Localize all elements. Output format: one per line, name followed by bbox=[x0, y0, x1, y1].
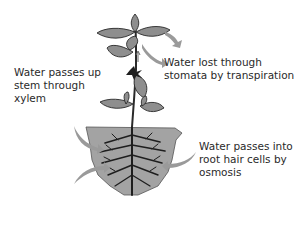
stomata-label-line-2: stomata by transpiration bbox=[164, 69, 294, 82]
stomata-label-line-1: Water lost through bbox=[164, 56, 294, 69]
xylem-label: Water passes up stem through xylem bbox=[14, 66, 101, 105]
osmosis-label-line-1: Water passes into bbox=[199, 140, 293, 153]
osmosis-label: Water passes into root hair cells by osm… bbox=[199, 140, 293, 179]
xylem-label-line-1: Water passes up bbox=[14, 66, 101, 79]
osmosis-label-line-3: osmosis bbox=[199, 166, 293, 179]
transpiration-arrow-icon bbox=[165, 32, 182, 48]
osmosis-label-line-2: root hair cells by bbox=[199, 153, 293, 166]
stomata-label: Water lost through stomata by transpirat… bbox=[164, 56, 294, 82]
xylem-label-line-3: xylem bbox=[14, 92, 101, 105]
soil-block bbox=[86, 127, 182, 195]
xylem-label-line-2: stem through bbox=[14, 79, 101, 92]
